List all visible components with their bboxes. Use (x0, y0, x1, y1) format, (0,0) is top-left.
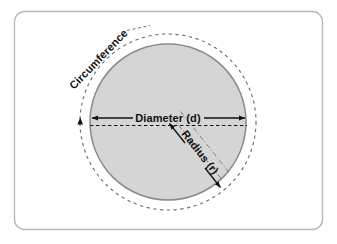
circle-geometry-figure: Circumference Diameter (d) Radius (r) (0, 0, 337, 244)
diameter-label: Diameter (d) (135, 112, 201, 124)
diagram-canvas: Circumference Diameter (d) Radius (r) (0, 0, 337, 244)
